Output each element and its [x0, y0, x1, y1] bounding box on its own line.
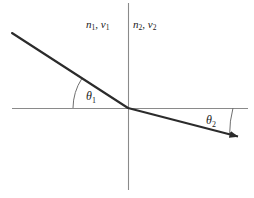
- refraction-diagram: n1, v1 n2, v2 θ1 θ2: [0, 0, 254, 198]
- medium-2-label: n2, v2: [133, 19, 156, 30]
- theta2-label: θ2: [206, 114, 216, 126]
- theta2-arc: [230, 108, 233, 135]
- theta2-subscript: 2: [212, 120, 216, 129]
- theta1-label: θ1: [86, 90, 96, 102]
- refractive-index-2-subscript: 2: [139, 23, 143, 32]
- velocity-2-symbol: v: [148, 18, 153, 30]
- refractive-index-2-symbol: n: [133, 18, 139, 30]
- velocity-2-subscript: 2: [153, 23, 157, 32]
- refracted-ray: [128, 108, 238, 137]
- theta1-subscript: 1: [92, 96, 96, 105]
- velocity-1-symbol: v: [101, 18, 106, 30]
- velocity-1-subscript: 1: [106, 23, 110, 32]
- medium-1-label: n1, v1: [86, 19, 109, 30]
- incident-ray: [12, 33, 128, 108]
- refractive-index-1-subscript: 1: [92, 23, 96, 32]
- diagram-canvas: [0, 0, 254, 198]
- refractive-index-1-symbol: n: [86, 18, 92, 30]
- theta1-arc: [73, 79, 82, 109]
